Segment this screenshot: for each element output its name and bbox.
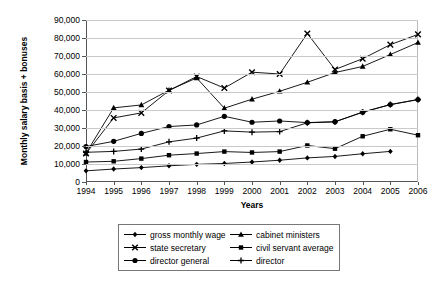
legend-item[interactable]: state secretary <box>123 241 229 254</box>
legend-item[interactable]: civil servant average <box>229 241 335 254</box>
legend-item[interactable]: gross monthly wage <box>123 228 229 241</box>
data-point-plus <box>387 102 393 108</box>
data-point-plus <box>277 129 283 135</box>
gridline <box>86 20 418 21</box>
gridline <box>86 128 418 129</box>
data-point-square <box>194 151 198 155</box>
y-axis-tick-label: 60,000 <box>28 70 80 79</box>
x-axis-title: Years <box>86 200 418 210</box>
data-point-circle <box>222 114 227 119</box>
data-point-circle <box>249 120 254 125</box>
legend-marker-cross-icon <box>123 242 147 253</box>
legend-marker-diamond-icon <box>123 229 147 240</box>
legend-label: director <box>256 256 284 266</box>
x-axis-tick-mark <box>197 182 198 185</box>
data-point-circle <box>277 118 282 123</box>
legend-row: state secretarycivil servant average <box>123 241 335 254</box>
gridline <box>86 146 418 147</box>
legend-label: director general <box>150 256 209 266</box>
data-point-square <box>250 150 254 154</box>
data-point-square <box>167 153 171 157</box>
y-axis-tick-label: 40,000 <box>28 106 80 115</box>
series-line <box>86 34 418 154</box>
data-point-cross <box>415 32 421 38</box>
data-point-square <box>277 149 281 153</box>
legend-item[interactable]: director general <box>123 254 229 267</box>
legend-marker-triangle-icon <box>229 229 253 240</box>
y-axis-tick-mark <box>82 74 86 75</box>
legend-label: cabinet ministers <box>256 230 320 240</box>
y-axis-tick-mark <box>82 146 86 147</box>
data-point-square <box>139 156 143 160</box>
series-line <box>86 100 418 153</box>
legend-marker-circle-icon <box>123 255 147 266</box>
y-axis-tick-mark <box>82 128 86 129</box>
y-axis-tick-mark <box>82 92 86 93</box>
data-point-plus <box>304 120 310 126</box>
data-point-circle <box>132 258 137 263</box>
y-axis-tick-mark <box>82 110 86 111</box>
series-line <box>86 151 390 170</box>
data-point-square <box>360 134 364 138</box>
legend-label: gross monthly wage <box>150 230 226 240</box>
data-point-cross <box>388 42 394 48</box>
x-axis-tick-mark <box>114 182 115 185</box>
gridline <box>86 74 418 75</box>
x-axis-tick-mark <box>141 182 142 185</box>
x-axis-tick-mark <box>224 182 225 185</box>
y-axis-tick-label: 90,000 <box>28 16 80 25</box>
data-point-circle <box>194 122 199 127</box>
y-axis-tick-label: 20,000 <box>28 142 80 151</box>
gridline <box>86 92 418 93</box>
data-point-plus <box>415 97 421 103</box>
data-point-diamond <box>139 165 144 170</box>
data-point-circle <box>139 131 144 136</box>
y-axis-tick-mark <box>82 38 86 39</box>
data-point-diamond <box>333 154 338 159</box>
data-point-plus <box>332 119 338 125</box>
plot-area <box>86 20 418 182</box>
data-point-triangle <box>138 102 144 107</box>
x-axis-tick-mark <box>169 182 170 185</box>
y-axis-tick-label: 30,000 <box>28 124 80 133</box>
y-axis-tick-label: 80,000 <box>28 34 80 43</box>
legend-item[interactable]: cabinet ministers <box>229 228 335 241</box>
x-axis-tick-mark <box>335 182 336 185</box>
y-axis-tick-mark <box>82 56 86 57</box>
y-axis-tick-mark <box>82 164 86 165</box>
data-point-plus <box>194 135 200 141</box>
y-axis-tick-labels: 010,00020,00030,00040,00050,00060,00070,… <box>28 0 80 200</box>
gridline <box>86 56 418 57</box>
data-point-plus <box>166 139 172 145</box>
gridline <box>86 110 418 111</box>
x-axis-tick-labels: 1994199519961997199819992000200120022003… <box>86 186 418 200</box>
gridline <box>86 38 418 39</box>
gridline <box>86 164 418 165</box>
legend-label: state secretary <box>150 243 206 253</box>
x-axis-tick-mark <box>390 182 391 185</box>
data-point-square <box>111 159 115 163</box>
data-point-circle <box>111 139 116 144</box>
legend-marker-square-icon <box>229 242 253 253</box>
data-point-triangle <box>415 39 421 44</box>
legend-row: gross monthly wagecabinet ministers <box>123 228 335 241</box>
data-point-diamond <box>388 149 393 154</box>
legend-item[interactable]: director <box>229 254 335 267</box>
y-axis-tick-label: 50,000 <box>28 88 80 97</box>
x-axis-tick-label: 2006 <box>401 186 435 196</box>
line-chart: Monthly salary basis + bonuses 010,00020… <box>0 0 442 283</box>
data-point-diamond <box>133 232 138 237</box>
chart-legend: gross monthly wagecabinet ministersstate… <box>118 224 340 271</box>
x-axis-tick-mark <box>363 182 364 185</box>
data-point-plus <box>111 148 117 154</box>
y-axis-tick-label: 70,000 <box>28 52 80 61</box>
x-axis-tick-mark <box>418 182 419 185</box>
x-axis-tick-mark <box>252 182 253 185</box>
y-axis-tick-mark <box>82 20 86 21</box>
data-point-square <box>222 149 226 153</box>
data-point-diamond <box>111 166 116 171</box>
series-2 <box>83 31 421 157</box>
series-layer <box>86 20 418 182</box>
data-point-square <box>416 133 420 137</box>
data-point-diamond <box>305 155 310 160</box>
